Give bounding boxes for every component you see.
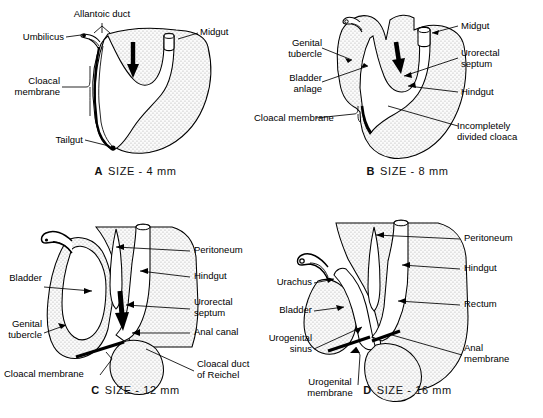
panel-d-letter: D <box>363 384 372 396</box>
leader-cloacal-membrane-brace <box>62 66 90 116</box>
label-genital-tubercle: Genital tubercle <box>0 319 42 340</box>
label-cloacal-membrane: Cloacal membrane <box>254 113 316 124</box>
label-bladder-anlage: Bladder anlage <box>272 73 322 94</box>
panel-b-size: SIZE - 8 mm <box>380 165 448 177</box>
panel-b-caption: BSIZE - 8 mm <box>272 165 543 177</box>
label-urorectal-septum: Urorectal septum <box>194 297 233 318</box>
label-urogenital-sinus: Urogenital sinus <box>264 333 312 354</box>
panel-c-letter: C <box>91 384 100 396</box>
embryology-figure: Allantoic duct Umbilicus Cloacal membran… <box>0 0 543 418</box>
panel-b-drawing <box>272 0 543 209</box>
panel-d-caption: DSIZE - 16 mm <box>272 384 543 396</box>
panel-a-letter: A <box>95 165 104 177</box>
label-anal-membrane: Anal membrane <box>464 343 509 364</box>
panel-c-caption: CSIZE - 12 mm <box>0 384 271 396</box>
label-bladder: Bladder <box>272 305 312 316</box>
umbilicus-point <box>82 34 86 38</box>
panel-a-size: SIZE - 4 mm <box>108 165 176 177</box>
label-hindgut: Hindgut <box>194 271 227 282</box>
leader-umbilicus <box>66 35 81 37</box>
label-peritoneum: Peritoneum <box>194 245 243 256</box>
label-bladder: Bladder <box>0 273 42 284</box>
panel-c: Bladder Genital tubercle Cloacal membran… <box>0 209 271 418</box>
label-incompletely-divided-cloaca: Incompletely divided cloaca <box>457 121 517 142</box>
hindgut-lumen-opening <box>136 224 150 230</box>
label-urorectal-septum: Urorectal septum <box>461 48 500 69</box>
label-genital-tubercle: Genital tubercle <box>272 38 322 59</box>
label-midgut: Midgut <box>200 27 229 38</box>
label-urachus: Urachus <box>272 277 312 288</box>
label-tailgut: Tailgut <box>0 135 83 146</box>
midgut-lumen-opening <box>164 34 174 39</box>
panel-a: Allantoic duct Umbilicus Cloacal membran… <box>0 0 271 209</box>
panel-c-size: SIZE - 12 mm <box>105 384 180 396</box>
label-cloacal-membrane: Cloacal membrane <box>0 76 60 97</box>
label-hindgut: Hindgut <box>464 263 497 274</box>
label-hindgut: Hindgut <box>461 87 494 98</box>
arrowhead-urogenital-membrane <box>350 347 360 353</box>
panel-b: Genital tubercle Bladder anlage Cloacal … <box>272 0 543 209</box>
label-cloacal-duct-of-reichel: Cloacal duct of Reichel <box>197 359 249 380</box>
panel-b-letter: B <box>367 165 376 177</box>
label-umbilicus: Umbilicus <box>0 32 64 43</box>
label-allantoic-duct: Allantoic duct <box>57 9 147 20</box>
body-mass-shading <box>337 15 466 158</box>
label-rectum: Rectum <box>464 299 497 310</box>
midgut-lumen-opening <box>418 27 430 32</box>
umbilicus-point <box>45 238 48 241</box>
tailgut-point <box>110 145 115 150</box>
panel-d-size: SIZE - 16 mm <box>377 384 452 396</box>
panel-a-caption: ASIZE - 4 mm <box>0 165 271 177</box>
hindgut-lumen-opening <box>394 220 408 226</box>
septum-arrow <box>120 291 122 315</box>
label-midgut: Midgut <box>461 21 490 32</box>
panel-d: Urachus Bladder Urogenital sinus Urogeni… <box>272 209 543 418</box>
label-anal-canal: Anal canal <box>194 327 238 338</box>
label-peritoneum: Peritoneum <box>464 233 513 244</box>
label-cloacal-membrane: Cloacal membrane <box>4 369 84 380</box>
leader-allantoic-duct <box>94 23 110 33</box>
